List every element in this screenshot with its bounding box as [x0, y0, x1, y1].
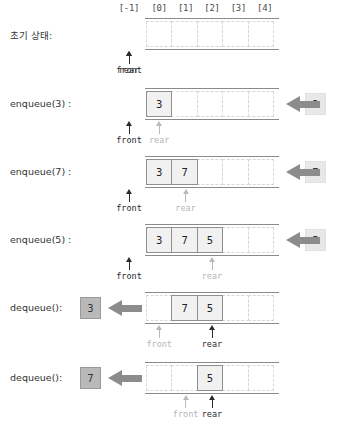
dequeue-arrow-icon	[108, 370, 142, 386]
operation-label: enqueue(7) :	[10, 166, 71, 177]
array-cell-empty	[248, 21, 274, 47]
array-rail-top	[145, 224, 279, 225]
queue-array	[146, 21, 278, 47]
rear-pointer-label: rear	[192, 409, 232, 419]
array-rail-top	[145, 292, 279, 293]
arrow-left-head	[108, 300, 122, 316]
queue-array: 375	[146, 227, 278, 253]
operation-label: 초기 상태:	[10, 28, 52, 42]
array-cell-empty	[222, 365, 248, 391]
array-cell-filled: 3	[146, 159, 172, 185]
array-cells: 37	[146, 159, 278, 185]
array-rail-top	[145, 156, 279, 157]
pointer-shaft	[159, 123, 160, 134]
array-cell-filled: 3	[146, 91, 172, 117]
operation-row: dequeue():5frontrear7	[0, 362, 337, 432]
column-header-4: [4]	[252, 2, 278, 15]
pointer-shaft	[185, 191, 186, 202]
operation-row: enqueue(7) :37frontrear7	[0, 156, 337, 226]
array-cell-empty	[146, 295, 172, 321]
pointer-shaft	[129, 53, 130, 64]
array-cell-filled: 7	[171, 295, 197, 321]
operation-label: dequeue():	[10, 302, 62, 313]
pointer-shaft	[185, 397, 186, 408]
arrow-left-head	[286, 96, 300, 112]
pointer-shaft	[129, 123, 130, 134]
array-cell-empty	[171, 21, 197, 47]
column-header-3: [3]	[225, 2, 251, 15]
array-cell-filled: 3	[146, 227, 172, 253]
enqueue-arrow-icon	[286, 164, 320, 180]
pointer-shaft	[159, 327, 160, 338]
array-cells: 5	[146, 365, 278, 391]
operation-row: enqueue(5) :375frontrear5	[0, 224, 337, 294]
enqueue-arrow-icon	[286, 96, 320, 112]
queue-array: 75	[146, 295, 278, 321]
array-cell-filled: 5	[197, 295, 223, 321]
arrow-left-head	[286, 164, 300, 180]
array-cell-empty	[222, 227, 248, 253]
array-cell-empty	[197, 21, 223, 47]
array-cell-empty	[222, 21, 248, 47]
arrow-left-head	[286, 232, 300, 248]
array-rail-top	[145, 88, 279, 89]
array-cell-empty	[222, 159, 248, 185]
rear-pointer-label: rear	[166, 203, 206, 213]
array-cell-empty	[248, 227, 274, 253]
arrow-left-tail	[300, 237, 320, 244]
array-rail-top	[145, 18, 279, 19]
dequeue-value-box: 3	[80, 297, 101, 319]
array-rail-bottom	[145, 323, 279, 324]
enqueue-arrow-icon	[286, 232, 320, 248]
rear-pointer-label: rear	[139, 135, 179, 145]
pointer-shaft	[129, 191, 130, 202]
front-pointer-label: front	[139, 339, 179, 349]
array-cell-empty	[248, 159, 274, 185]
array-cell-empty	[248, 91, 274, 117]
array-rail-top	[145, 362, 279, 363]
array-cell-empty	[171, 365, 197, 391]
arrow-left-tail	[300, 169, 320, 176]
rear-pointer-label: rear	[192, 339, 232, 349]
array-cell-filled: 5	[197, 227, 223, 253]
array-rail-bottom	[145, 393, 279, 394]
operation-row: 초기 상태:frontrear	[0, 18, 337, 88]
column-header-1: [1]	[173, 2, 199, 15]
array-cell-empty	[197, 159, 223, 185]
column-header-0: [0]	[146, 2, 172, 15]
column-header-minus1: [-1]	[116, 2, 142, 15]
array-rail-bottom	[145, 187, 279, 188]
operation-row: dequeue():75frontrear3	[0, 292, 337, 362]
arrow-left-tail	[300, 101, 320, 108]
arrow-left-tail	[122, 305, 142, 312]
queue-diagram: [-1][0][1][2][3][4] 초기 상태:frontrearenque…	[0, 0, 337, 433]
array-rail-bottom	[145, 119, 279, 120]
array-cells	[146, 21, 278, 47]
column-header-row: [-1][0][1][2][3][4]	[0, 2, 337, 16]
queue-array: 3	[146, 91, 278, 117]
column-header-2: [2]	[199, 2, 225, 15]
front-pointer-label: front	[109, 203, 149, 213]
array-cell-filled: 7	[171, 159, 197, 185]
array-cell-filled: 7	[171, 227, 197, 253]
pointer-shaft	[129, 259, 130, 270]
array-cell-empty	[248, 295, 274, 321]
dequeue-value-box: 7	[80, 367, 101, 389]
array-cells: 375	[146, 227, 278, 253]
pointer-shaft	[212, 327, 213, 338]
array-cell-empty	[146, 21, 172, 47]
rear-pointer-label: rear	[192, 271, 232, 281]
array-rail-bottom	[145, 255, 279, 256]
dequeue-arrow-icon	[108, 300, 142, 316]
array-cells: 75	[146, 295, 278, 321]
array-rail-bottom	[145, 49, 279, 50]
rear-pointer-label: rear	[109, 65, 149, 75]
pointer-shaft	[212, 259, 213, 270]
array-cell-filled: 5	[197, 365, 223, 391]
arrow-left-head	[108, 370, 122, 386]
array-cell-empty	[171, 91, 197, 117]
array-cell-empty	[146, 365, 172, 391]
array-cell-empty	[222, 91, 248, 117]
array-cells: 3	[146, 91, 278, 117]
array-cell-empty	[222, 295, 248, 321]
